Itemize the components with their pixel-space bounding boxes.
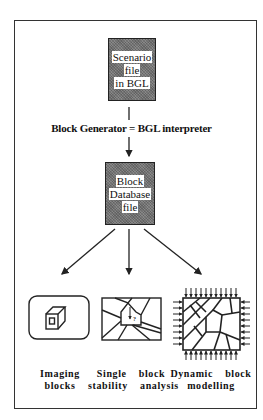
caption-imaging-line-2: blocks <box>24 380 96 392</box>
caption-stability: Single block stability analysis <box>88 368 174 392</box>
svg-text:?: ? <box>133 316 136 322</box>
caption-stability-line-1: Single block <box>88 368 174 380</box>
arrow-to-imaging <box>62 229 115 274</box>
caption-stability-line-2: stability analysis <box>88 380 174 392</box>
caption-dynamic-line-1: Dynamic block <box>170 368 252 380</box>
block-assembly-under-stress-icon <box>173 288 250 360</box>
caption-imaging-line-1: Imaging <box>24 368 96 380</box>
caption-dynamic: Dynamic block modelling <box>170 368 252 392</box>
caption-imaging: Imaging blocks <box>24 368 96 392</box>
caption-dynamic-line-2: modelling <box>170 380 252 392</box>
connectors: ? <box>0 0 263 420</box>
single-block-fracture-icon: ? <box>102 298 161 340</box>
cube-in-rounded-box-icon <box>29 296 89 339</box>
arrow-to-dynamic <box>144 229 201 274</box>
